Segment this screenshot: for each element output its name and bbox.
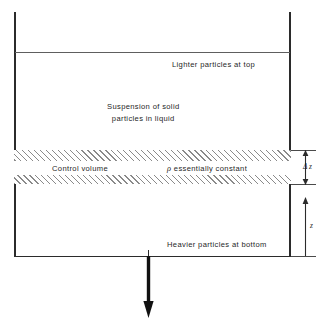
diagram-canvas: Lighter particles at top Suspension of s… [0, 0, 323, 324]
vessel-left-wall [14, 12, 16, 257]
dimension-label-delta-z: Δ z [303, 162, 312, 171]
label-heavier-particles: Heavier particles at bottom [167, 240, 267, 249]
label-suspension-line1: Suspension of solid [107, 101, 180, 113]
rho-caption: essentially constant [171, 164, 247, 173]
label-control-volume: Control volume [52, 164, 108, 173]
label-lighter-particles: Lighter particles at top [172, 60, 255, 69]
liquid-surface-line [15, 52, 290, 53]
dimension-label-z: z [310, 221, 313, 230]
label-suspension-line2: particles in liquid [107, 113, 180, 125]
label-density-constant: ρ essentially constant [167, 164, 247, 173]
label-suspension: Suspension of solid particles in liquid [107, 101, 180, 124]
down-arrow-icon [133, 254, 164, 320]
vessel-right-wall [289, 12, 291, 257]
